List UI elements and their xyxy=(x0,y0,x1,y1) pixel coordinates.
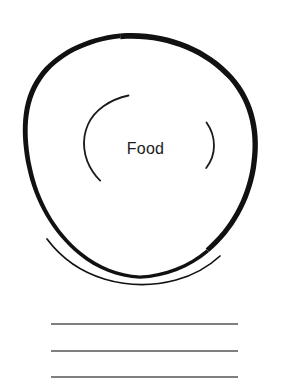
plate-drawing-canvas xyxy=(0,0,285,384)
plate-label-text: Food xyxy=(127,140,164,157)
page-background xyxy=(0,0,285,384)
worksheet-page: Food xyxy=(0,0,285,384)
plate-label: Food xyxy=(0,139,285,159)
